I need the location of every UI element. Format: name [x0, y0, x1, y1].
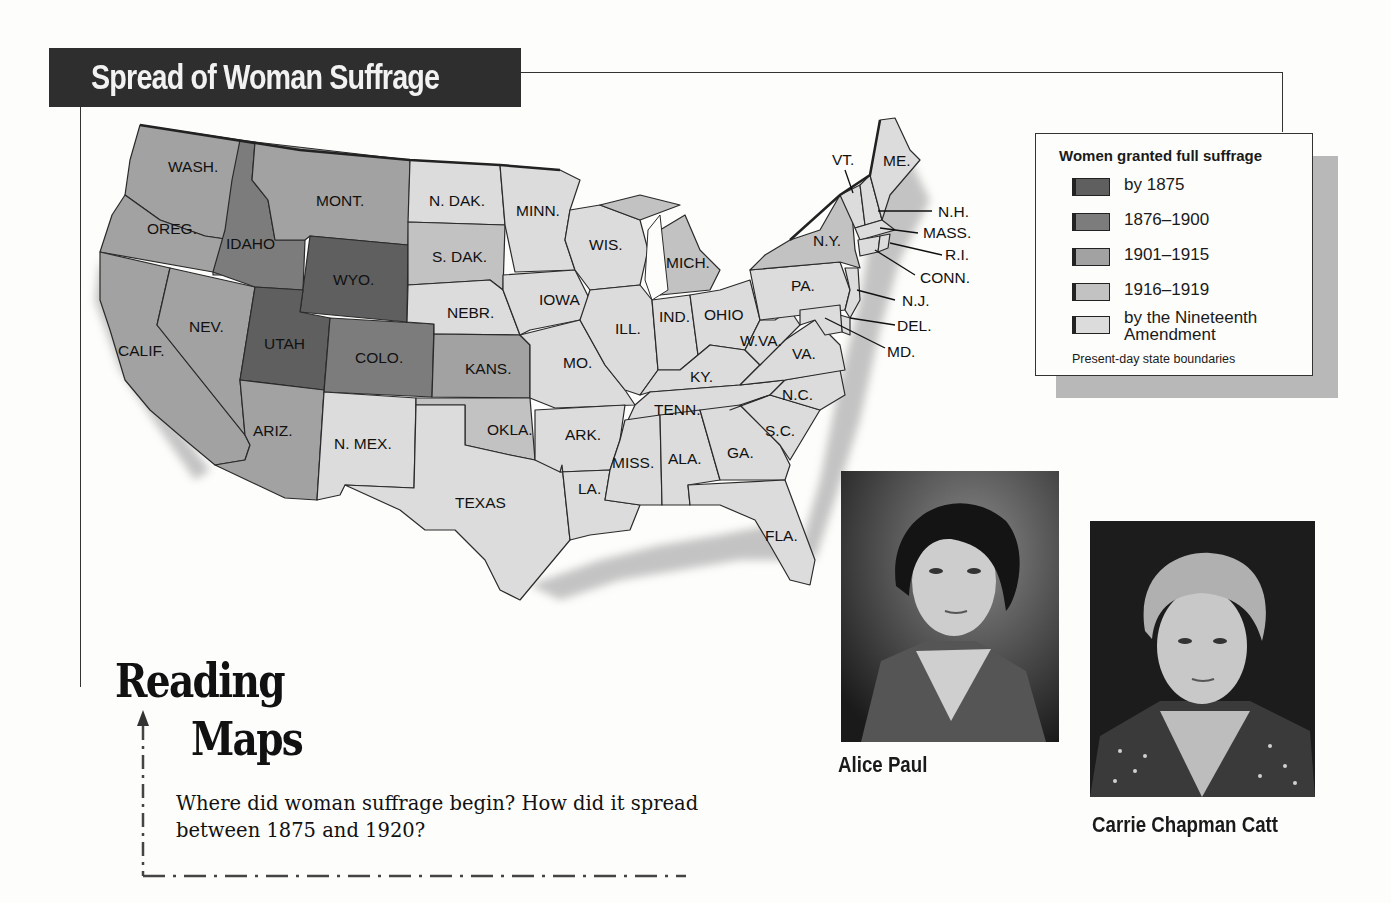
legend-label: by 1875 [1124, 176, 1185, 194]
portrait-image [1090, 521, 1315, 797]
svg-text:MASS.: MASS. [923, 224, 971, 241]
svg-text:N.H.: N.H. [938, 203, 969, 220]
portrait-image [841, 471, 1059, 742]
svg-text:ARIZ.: ARIZ. [253, 422, 293, 439]
legend-label: 1901–1915 [1124, 246, 1209, 264]
svg-text:TEXAS: TEXAS [455, 494, 506, 511]
svg-text:NEBR.: NEBR. [447, 304, 494, 321]
svg-text:N. MEX.: N. MEX. [334, 435, 392, 452]
legend-swatch [1072, 283, 1110, 301]
svg-text:R.I.: R.I. [945, 246, 969, 263]
photo-carrie-chapman-catt [1090, 521, 1315, 797]
legend-note: Present-day state boundaries [1072, 352, 1235, 366]
legend-swatch [1072, 213, 1110, 231]
svg-text:WYO.: WYO. [333, 271, 374, 288]
svg-text:LA.: LA. [578, 480, 601, 497]
svg-text:DEL.: DEL. [897, 317, 931, 334]
svg-text:CALIF.: CALIF. [118, 342, 165, 359]
svg-text:MO.: MO. [563, 354, 592, 371]
legend-label: 1916–1919 [1124, 281, 1209, 299]
svg-text:CONN.: CONN. [920, 269, 970, 286]
svg-text:ILL.: ILL. [615, 320, 641, 337]
legend-swatch [1072, 316, 1110, 334]
legend-swatch [1072, 248, 1110, 266]
svg-text:N. DAK.: N. DAK. [429, 192, 485, 209]
svg-text:S.C.: S.C. [765, 422, 795, 439]
legend-item-1901-1915: 1901–1915 [1072, 246, 1209, 268]
svg-text:N.Y.: N.Y. [813, 232, 841, 249]
svg-text:COLO.: COLO. [355, 349, 403, 366]
svg-text:WIS.: WIS. [589, 236, 623, 253]
svg-text:IND.: IND. [659, 308, 690, 325]
legend-item-1876-1900: 1876–1900 [1072, 211, 1209, 233]
svg-text:ALA.: ALA. [668, 450, 702, 467]
legend-label: by the Nineteenth Amendment [1124, 309, 1274, 343]
legend-label: 1876–1900 [1124, 211, 1209, 229]
svg-text:UTAH: UTAH [264, 335, 305, 352]
svg-text:ME.: ME. [883, 152, 911, 169]
reading-maps-question: Where did woman suffrage begin? How did … [176, 790, 756, 844]
svg-text:W.VA.: W.VA. [740, 332, 782, 349]
svg-text:MISS.: MISS. [612, 454, 654, 471]
svg-text:IOWA: IOWA [539, 291, 580, 308]
legend-item-1916-1919: 1916–1919 [1072, 281, 1209, 303]
svg-text:MD.: MD. [887, 343, 915, 360]
legend-swatch [1072, 178, 1110, 196]
caption-alice-paul: Alice Paul [838, 752, 927, 778]
svg-text:OKLA.: OKLA. [487, 421, 533, 438]
legend-item-by-1875: by 1875 [1072, 176, 1185, 198]
svg-text:KY.: KY. [690, 368, 713, 385]
svg-text:N.J.: N.J. [902, 292, 930, 309]
svg-text:OREG.: OREG. [147, 220, 197, 237]
svg-text:VA.: VA. [792, 345, 816, 362]
svg-text:MONT.: MONT. [316, 192, 364, 209]
svg-text:MINN.: MINN. [516, 202, 560, 219]
svg-text:NEV.: NEV. [189, 318, 224, 335]
svg-text:MICH.: MICH. [666, 254, 710, 271]
arrow-up-icon [137, 710, 149, 726]
legend-item-nineteenth-amendment: by the Nineteenth Amendment [1072, 309, 1274, 345]
map-legend: Women granted full suffrage by 1875 1876… [1035, 133, 1313, 376]
svg-text:VT.: VT. [832, 151, 854, 168]
caption-carrie-chapman-catt: Carrie Chapman Catt [1092, 812, 1278, 838]
reading-maps-heading-line1: Reading [115, 654, 284, 708]
svg-text:FLA.: FLA. [765, 527, 798, 544]
svg-text:IDAHO: IDAHO [226, 235, 275, 252]
svg-text:KANS.: KANS. [465, 360, 512, 377]
legend-title: Women granted full suffrage [1059, 147, 1262, 164]
svg-text:TENN.: TENN. [654, 401, 701, 418]
svg-text:WASH.: WASH. [168, 158, 218, 175]
svg-text:GA.: GA. [727, 444, 754, 461]
svg-text:ARK.: ARK. [565, 426, 601, 443]
svg-text:PA.: PA. [791, 277, 815, 294]
svg-text:OHIO: OHIO [704, 306, 744, 323]
svg-text:S. DAK.: S. DAK. [432, 248, 487, 265]
photo-alice-paul [841, 471, 1059, 742]
svg-text:N.C.: N.C. [782, 386, 813, 403]
